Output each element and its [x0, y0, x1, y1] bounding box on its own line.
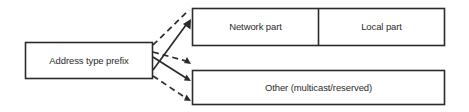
connector-prefix-to-network-solid [153, 25, 186, 70]
connector-group [153, 10, 191, 101]
node-other-address: Other (multicast/reserved) [193, 71, 445, 105]
network-part-label: Network part [229, 21, 282, 32]
arrowhead-other-dashed-lower [184, 95, 191, 102]
node-unicast-address: Network part Local part [193, 9, 445, 46]
other-address-label: Other (multicast/reserved) [265, 82, 372, 93]
node-address-type-prefix: Address type prefix [26, 43, 153, 79]
address-type-prefix-label: Address type prefix [49, 55, 129, 66]
diagram-canvas: Address type prefix Network part Local p… [0, 0, 469, 112]
connector-prefix-to-other-solid [153, 57, 186, 78]
address-prefix-diagram: Address type prefix Network part Local p… [0, 0, 469, 112]
local-part-label: Local part [361, 21, 402, 32]
connector-prefix-to-other-dashed-lower [153, 76, 186, 98]
